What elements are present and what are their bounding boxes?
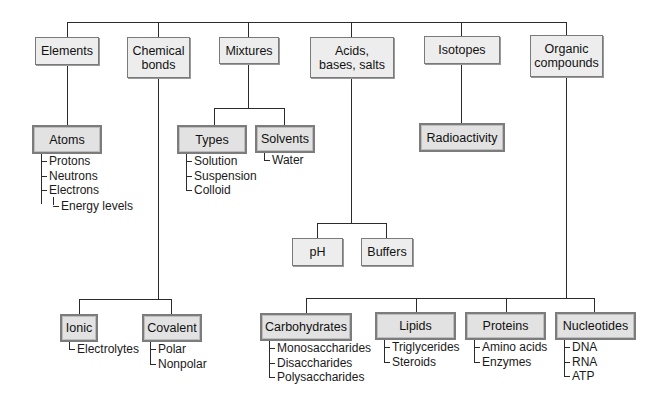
connector bbox=[317, 223, 318, 238]
list-item: DNA bbox=[564, 340, 597, 355]
atoms-list: Protons Neutrons Electrons bbox=[41, 154, 99, 198]
connector bbox=[79, 299, 80, 314]
node-label: Carbohydrates bbox=[265, 320, 347, 334]
node-isotopes: Isotopes bbox=[424, 36, 500, 64]
node-label: Solvents bbox=[261, 132, 309, 146]
connector bbox=[566, 76, 567, 298]
connector bbox=[506, 298, 507, 312]
types-list: Solution Suspension Colloid bbox=[186, 154, 257, 198]
node-ph: pH bbox=[292, 238, 343, 266]
node-solvents: Solvents bbox=[255, 125, 315, 153]
list-item: Neutrons bbox=[41, 169, 99, 184]
list-item: Triglycerides bbox=[384, 340, 460, 355]
connector bbox=[248, 22, 249, 37]
node-label: Radioactivity bbox=[427, 131, 498, 145]
connector bbox=[351, 77, 352, 223]
list-item: Amino acids bbox=[474, 340, 547, 355]
connector bbox=[306, 298, 595, 299]
list-item: Solution bbox=[186, 154, 257, 169]
ionic-list: Electrolytes bbox=[69, 342, 139, 357]
list-item: Water bbox=[264, 153, 304, 168]
connector bbox=[566, 22, 567, 35]
node-radioactivity: Radioactivity bbox=[419, 123, 505, 152]
node-elements: Elements bbox=[35, 37, 99, 65]
node-label: Covalent bbox=[147, 321, 196, 335]
list-item: Monosaccharides bbox=[269, 341, 371, 356]
connector bbox=[79, 299, 172, 300]
node-acids-bases-salts: Acids, bases, salts bbox=[310, 37, 394, 78]
node-label: Ionic bbox=[66, 321, 92, 335]
nucleotides-list: DNA RNA ATP bbox=[564, 340, 597, 384]
list-item: Protons bbox=[41, 154, 99, 169]
node-label: Buffers bbox=[367, 245, 406, 259]
node-label: Lipids bbox=[399, 319, 432, 333]
list-item: Steroids bbox=[384, 355, 460, 370]
solvents-list: Water bbox=[264, 153, 304, 168]
list-item: RNA bbox=[564, 355, 597, 370]
connector bbox=[158, 77, 159, 299]
node-chemical-bonds: Chemical bonds bbox=[127, 37, 190, 78]
connector bbox=[416, 298, 417, 312]
connector bbox=[171, 299, 172, 314]
list-item: Energy levels bbox=[53, 199, 133, 214]
list-item: Polysaccharides bbox=[269, 370, 371, 385]
lipids-list: Triglycerides Steroids bbox=[384, 340, 460, 369]
node-organic-compounds: Organic compounds bbox=[530, 35, 603, 77]
node-label: Nucleotides bbox=[563, 319, 628, 333]
node-label: Organic compounds bbox=[534, 42, 599, 70]
list-item: Disaccharides bbox=[269, 356, 371, 371]
covalent-list: Polar Nonpolar bbox=[150, 342, 207, 371]
node-types: Types bbox=[177, 125, 247, 154]
connector bbox=[351, 22, 352, 37]
node-label: Elements bbox=[41, 44, 93, 58]
node-label: Atoms bbox=[49, 133, 84, 147]
node-label: pH bbox=[310, 245, 326, 259]
connector bbox=[67, 22, 68, 37]
node-label: Types bbox=[195, 133, 228, 147]
node-ionic: Ionic bbox=[60, 314, 98, 342]
connector bbox=[317, 223, 387, 224]
list-item: Colloid bbox=[186, 183, 257, 198]
node-mixtures: Mixtures bbox=[219, 37, 279, 64]
connector bbox=[158, 22, 159, 37]
list-item: Electrons bbox=[41, 183, 99, 198]
node-label: Isotopes bbox=[438, 43, 485, 57]
proteins-list: Amino acids Enzymes bbox=[474, 340, 547, 369]
node-label: Chemical bonds bbox=[132, 44, 185, 72]
connector bbox=[67, 64, 68, 125]
node-proteins: Proteins bbox=[465, 312, 546, 340]
list-item: Enzymes bbox=[474, 355, 547, 370]
connector bbox=[214, 108, 215, 125]
node-atoms: Atoms bbox=[32, 125, 102, 154]
connector bbox=[306, 298, 307, 313]
connector bbox=[461, 22, 462, 36]
connector bbox=[461, 63, 462, 123]
list-item: Nonpolar bbox=[150, 357, 207, 372]
node-label: Acids, bases, salts bbox=[317, 44, 387, 72]
connector bbox=[214, 108, 285, 109]
connector bbox=[248, 63, 249, 108]
connector bbox=[284, 108, 285, 125]
connector bbox=[386, 223, 387, 238]
electrons-sublist: Energy levels bbox=[53, 197, 133, 212]
connector bbox=[594, 298, 595, 312]
carbohydrates-list: Monosaccharides Disaccharides Polysaccha… bbox=[269, 341, 371, 385]
top-connector bbox=[67, 22, 567, 23]
node-buffers: Buffers bbox=[361, 238, 413, 266]
list-item: Suspension bbox=[186, 169, 257, 184]
node-label: Mixtures bbox=[225, 44, 272, 58]
list-item: Polar bbox=[150, 342, 207, 357]
node-label: Proteins bbox=[483, 319, 529, 333]
list-item: Electrolytes bbox=[69, 342, 139, 357]
list-item: ATP bbox=[564, 369, 597, 384]
node-covalent: Covalent bbox=[142, 314, 202, 342]
node-carbohydrates: Carbohydrates bbox=[260, 313, 352, 341]
node-nucleotides: Nucleotides bbox=[555, 312, 636, 340]
node-lipids: Lipids bbox=[375, 312, 456, 340]
